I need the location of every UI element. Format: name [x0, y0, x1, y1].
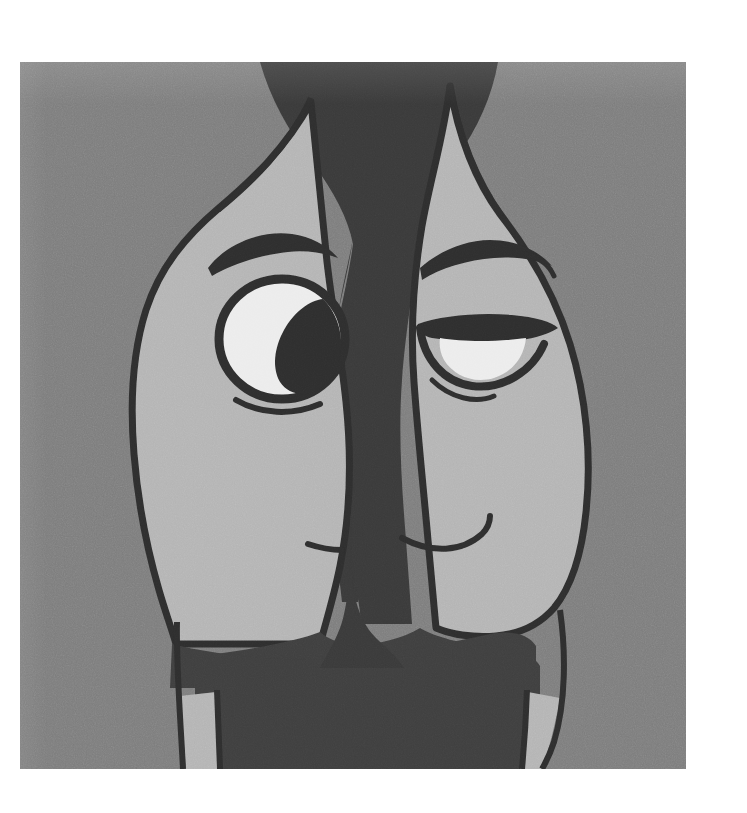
paper-grain [20, 62, 686, 769]
two-faces-illustration [20, 62, 686, 769]
artwork-frame [20, 62, 686, 769]
page-root: Two Faces Flat-color cartoon illustratio… [0, 0, 747, 813]
